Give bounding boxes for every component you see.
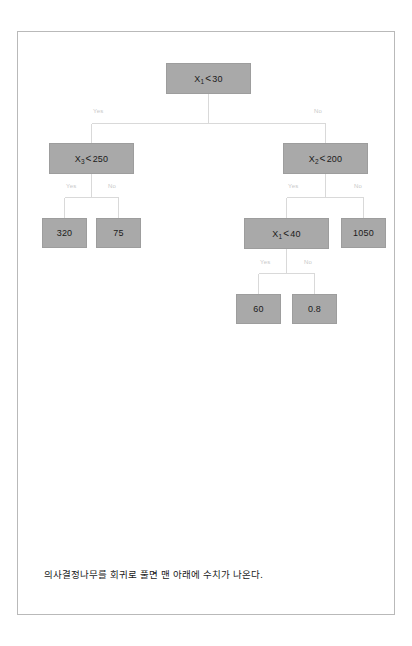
edge-label-root-no: No bbox=[314, 108, 322, 114]
tree-node-right-decision[interactable]: X2<200 bbox=[283, 143, 368, 174]
tree-node-left-decision[interactable]: X3<250 bbox=[49, 143, 134, 174]
figure-caption: 의사결정나무를 회귀로 풀면 맨 아래에 수치가 나온다. bbox=[44, 568, 374, 582]
tree-leaf-0-8[interactable]: 0.8 bbox=[292, 294, 337, 324]
tree-node-right-decision-label: X2<200 bbox=[309, 153, 343, 164]
tree-node-inner-right-decision-label: X1<40 bbox=[272, 228, 300, 239]
edge-label-left-yes: Yes bbox=[66, 183, 76, 189]
edge-label-inner-no: No bbox=[304, 259, 312, 265]
tree-leaf-75[interactable]: 75 bbox=[96, 218, 141, 248]
edge-label-left-no: No bbox=[108, 183, 116, 189]
edge-label-root-yes: Yes bbox=[93, 108, 103, 114]
tree-leaf-320[interactable]: 320 bbox=[42, 218, 87, 248]
tree-leaf-60[interactable]: 60 bbox=[236, 294, 281, 324]
edge-label-inner-yes: Yes bbox=[260, 259, 270, 265]
tree-node-root[interactable]: X1<30 bbox=[166, 63, 251, 94]
tree-node-left-decision-label: X3<250 bbox=[75, 153, 109, 164]
tree-leaf-1050[interactable]: 1050 bbox=[341, 218, 386, 248]
tree-node-inner-right-decision[interactable]: X1<40 bbox=[244, 218, 329, 249]
page-frame: X1<30 Yes No X3<250 X2<200 Yes No Yes No… bbox=[17, 31, 395, 615]
tree-connectors bbox=[18, 32, 396, 616]
edge-label-right-no: No bbox=[354, 183, 362, 189]
tree-node-root-label: X1<30 bbox=[194, 73, 222, 84]
decision-tree-diagram: X1<30 Yes No X3<250 X2<200 Yes No Yes No… bbox=[18, 32, 396, 616]
edge-label-right-yes: Yes bbox=[288, 183, 298, 189]
